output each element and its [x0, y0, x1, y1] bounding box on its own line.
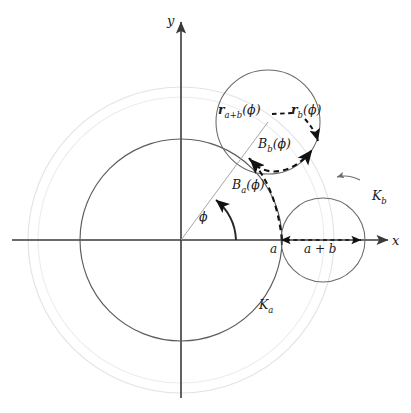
dashed-vector-link: [272, 113, 292, 114]
y-axis-label: y: [167, 14, 174, 27]
label-segment-a-plus-b: a + b: [304, 243, 337, 255]
label-phi: ϕ: [199, 211, 208, 224]
label-K-a: Ka: [259, 299, 273, 314]
label-K-b: Kb: [372, 190, 387, 205]
label-r-b: rb(ϕ): [291, 104, 321, 119]
figure-canvas: y x ra+b(ϕ) rb(ϕ) Bb(ϕ) Ba(ϕ) Ka Kb ϕ a …: [0, 0, 411, 413]
label-B-b: Bb(ϕ): [258, 138, 291, 153]
orientation-arrow-K-b: [337, 176, 360, 180]
label-point-a: a: [270, 243, 277, 255]
curve-B-b: [249, 150, 312, 171]
label-B-a: Ba(ϕ): [232, 179, 265, 194]
diagram-svg: [0, 0, 411, 413]
phi-angle-arc: [216, 200, 236, 240]
label-r-a-plus-b: ra+b(ϕ): [218, 104, 261, 119]
dashed-vector-to-point: [305, 119, 318, 141]
x-axis-label: x: [392, 234, 399, 247]
